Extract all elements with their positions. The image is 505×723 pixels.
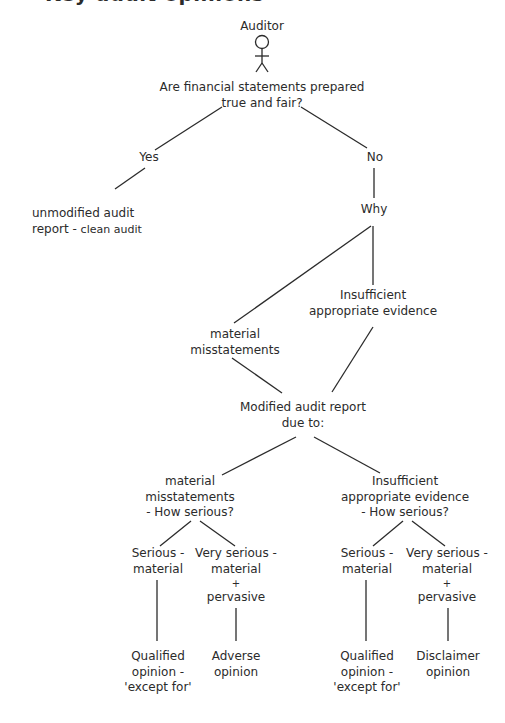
edge-modified-group-left xyxy=(222,437,296,475)
left-serious-node: Serious - material xyxy=(132,546,185,577)
edge-misstatements-modified xyxy=(232,358,282,393)
audit-opinion-flowchart: Key audit opinions xyxy=(0,0,505,723)
group-insufficient-heading: Insufficient appropriate evidence - How … xyxy=(341,474,469,521)
left-very-serious-node: Very serious - material + pervasive xyxy=(195,546,277,606)
reason-material-misstatements: material misstatements xyxy=(190,327,279,358)
question-node: Are financial statements prepared true a… xyxy=(160,80,365,111)
edge-modified-group-right xyxy=(314,437,380,473)
modified-report-node: Modified audit report due to: xyxy=(240,400,366,431)
group-misstatements-heading: material misstatements - How serious? xyxy=(145,474,234,521)
actor-label: Auditor xyxy=(240,19,284,35)
no-node: No xyxy=(367,150,383,166)
edge-right-serious xyxy=(373,521,403,546)
right-very-serious-node: Very serious - material + pervasive xyxy=(406,546,488,606)
reason-insufficient-evidence: Insufficient appropriate evidence xyxy=(309,288,437,319)
yes-node: Yes xyxy=(139,150,158,166)
adverse-opinion-node: Adverse opinion xyxy=(212,649,261,680)
edge-yes-unmodified xyxy=(115,168,145,189)
edge-left-serious xyxy=(160,521,191,546)
why-node: Why xyxy=(361,202,388,218)
disclaimer-opinion-node: Disclaimer opinion xyxy=(416,649,479,680)
left-qualified-opinion-node: Qualified opinion - 'except for' xyxy=(124,649,191,696)
stick-figure-icon xyxy=(255,36,269,73)
edge-question-yes xyxy=(155,107,222,150)
edge-right-very-serious xyxy=(412,521,445,546)
clipped-title: Key audit opinions xyxy=(0,0,505,6)
edge-left-very-serious xyxy=(200,521,235,546)
right-qualified-opinion-node: Qualified opinion - 'except for' xyxy=(333,649,400,696)
right-serious-node: Serious - material xyxy=(341,546,394,577)
edge-question-no xyxy=(301,107,367,148)
edge-insufficient-modified xyxy=(332,327,373,392)
unmodified-report-node: unmodified audit report - clean audit xyxy=(32,206,142,237)
